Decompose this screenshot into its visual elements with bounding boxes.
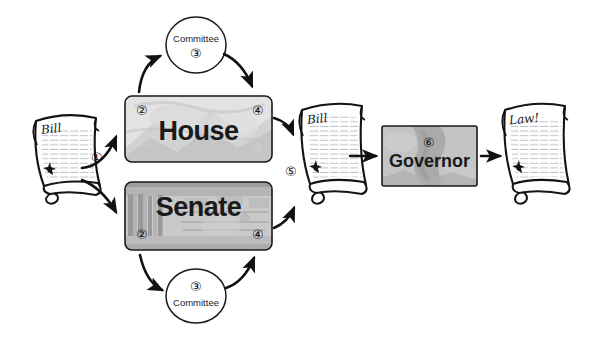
house-box-graphic[interactable] — [125, 96, 272, 162]
law-scroll-graphic — [502, 104, 569, 204]
arrow-house-to-bill — [274, 118, 293, 134]
legislative-process-diagram: Bill Bill Law! House ② ④ Senate ② ④ Comm… — [0, 0, 598, 342]
arrow-house-to-committee — [139, 56, 160, 92]
committee-house-circle[interactable] — [166, 17, 226, 73]
arrow-senate-to-committee — [140, 255, 162, 290]
committee-senate-circle[interactable] — [166, 269, 226, 323]
senate-box-graphic[interactable] — [125, 182, 272, 250]
arrow-committee-to-house — [224, 54, 252, 86]
bill-scroll-middle-graphic — [299, 104, 366, 204]
bill-scroll-start-graphic — [33, 115, 100, 204]
governor-box-graphic[interactable] — [382, 126, 477, 186]
arrow-committee-to-senate — [226, 258, 254, 288]
diagram-canvas — [0, 0, 598, 342]
arrow-senate-to-bill — [274, 208, 294, 228]
